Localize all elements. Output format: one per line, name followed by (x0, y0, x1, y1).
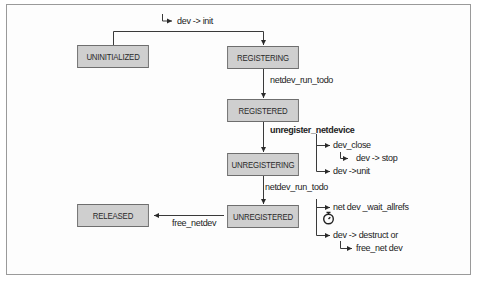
connector-lines (0, 0, 477, 281)
state-unregistered: UNREGISTERED (227, 205, 299, 228)
state-uninitialized: UNINITIALIZED (77, 45, 149, 68)
call-wait-allrefs: net dev _wait_allrefs (333, 203, 409, 212)
call-dev-close: dev_close (333, 141, 371, 150)
transition-label-free: free_netdev (172, 219, 216, 228)
state-registering: REGISTERING (227, 46, 299, 69)
call-dev-uninit: dev ->unit (333, 167, 370, 176)
state-unregistering: UNREGISTERING (227, 153, 299, 176)
transition-label-init: dev -> init (177, 17, 213, 26)
state-released: RELEASED (77, 204, 149, 227)
call-destructor: dev -> destruct or (333, 231, 398, 240)
transition-label-unregister: unregister_netdevice (270, 126, 355, 135)
transition-label-run-todo-2: netdev_run_todo (265, 183, 328, 192)
call-dev-stop: dev -> stop (356, 154, 397, 163)
stopwatch-icon (322, 211, 335, 225)
transition-label-run-todo-1: netdev_run_todo (270, 76, 333, 85)
state-registered: REGISTERED (227, 99, 299, 122)
call-free-net-dev: free_net dev (356, 244, 402, 253)
